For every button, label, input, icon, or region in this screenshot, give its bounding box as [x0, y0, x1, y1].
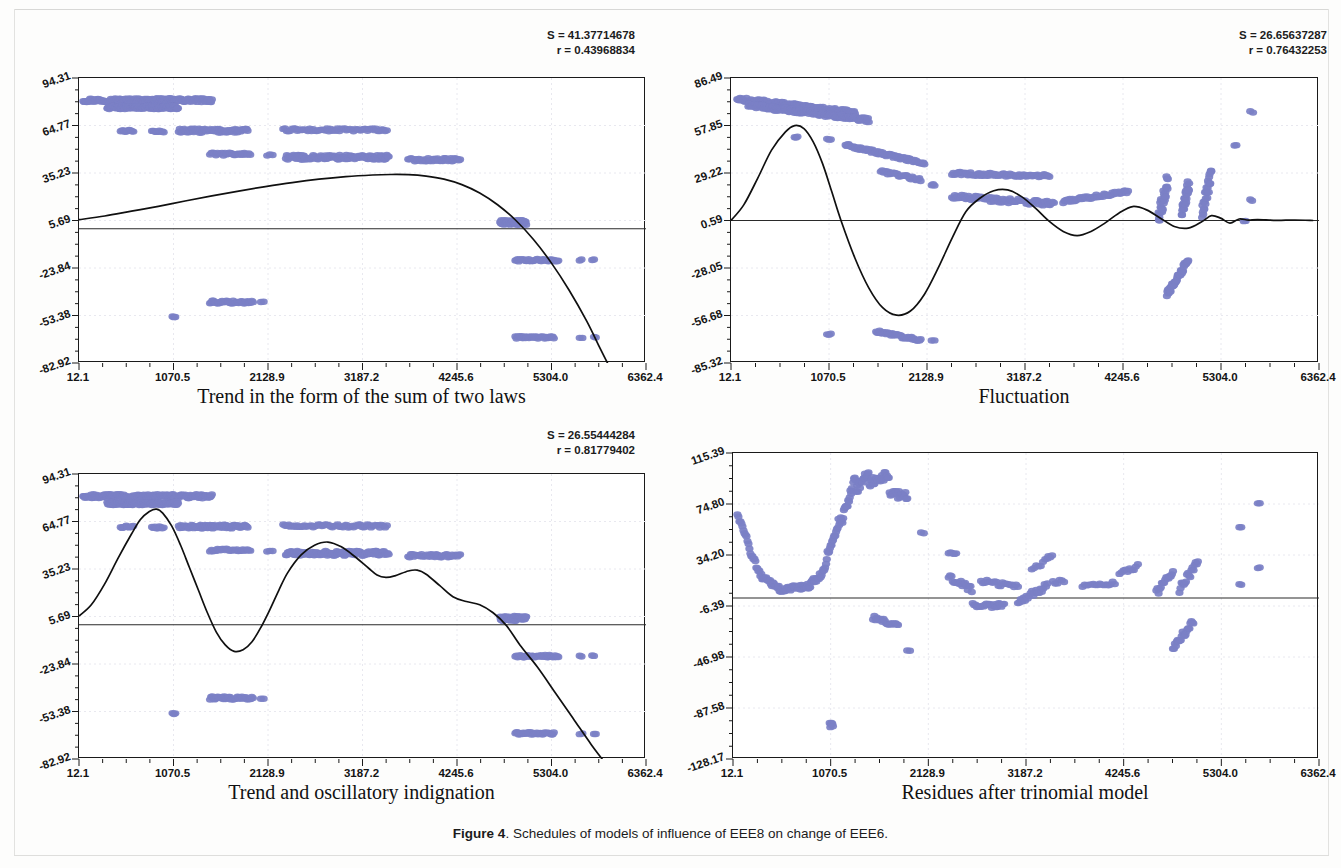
plot-canvas-2: [79, 474, 646, 759]
stats-annotation-0: S = 41.37714678 r = 0.43968834: [547, 28, 635, 58]
y-tick-label: 57.85: [669, 117, 724, 146]
x-tick-label: 1070.5: [792, 371, 864, 383]
x-tick-label: 2128.9: [231, 371, 303, 383]
x-tick-label: 4245.6: [420, 371, 492, 383]
x-tick-label: 3187.2: [326, 371, 398, 383]
y-tick-label: 94.31: [17, 69, 72, 98]
x-tick-label: 5304.0: [1184, 371, 1256, 383]
s-value-1: S = 26.65637287: [1239, 28, 1327, 43]
y-tick-label: 34.20: [671, 546, 726, 575]
scan-border-bottom: [14, 855, 1329, 856]
x-tick-label: 5304.0: [515, 767, 587, 779]
x-tick-label: 4245.6: [1086, 371, 1158, 383]
y-tick-label: -87.58: [671, 699, 726, 728]
y-tick-label: -53.38: [17, 307, 72, 336]
y-tick-label: 5.69: [17, 608, 72, 637]
panel-title-0: Trend in the form of the sum of two laws: [78, 385, 645, 408]
y-tick-label: -56.68: [669, 307, 724, 336]
y-tick-label: 86.49: [669, 69, 724, 98]
x-tick-label: 1070.5: [137, 371, 209, 383]
figure-caption-label: Figure 4: [453, 826, 506, 841]
x-tick-label: 5304.0: [515, 371, 587, 383]
panel-title-1: Fluctuation: [730, 385, 1318, 408]
s-value-2: S = 26.55444284: [547, 428, 635, 443]
y-tick-label: 115.39: [671, 444, 726, 473]
s-value-0: S = 41.37714678: [547, 28, 635, 43]
chart-panel-fluctuation: S = 26.65637287 r = 0.76432253 Fluctuati…: [660, 0, 1341, 420]
x-tick-label: 12.1: [696, 767, 768, 779]
y-tick-label: 64.77: [17, 513, 72, 542]
plot-area-3[interactable]: [732, 452, 1318, 758]
x-tick-label: 4245.6: [420, 767, 492, 779]
y-tick-label: 35.23: [17, 560, 72, 589]
x-tick-label: 2128.9: [891, 767, 963, 779]
y-tick-label: -46.98: [671, 648, 726, 677]
chart-panel-trend-sum-two-laws: S = 41.37714678 r = 0.43968834 Trend in …: [0, 0, 670, 420]
x-tick-label: 4245.6: [1087, 767, 1159, 779]
panel-title-2: Trend and oscillatory indignation: [78, 781, 645, 804]
x-tick-label: 3187.2: [988, 371, 1060, 383]
panel-title-3: Residues after trinomial model: [732, 781, 1318, 804]
y-tick-label: -53.38: [17, 703, 72, 732]
x-tick-label: 6362.4: [1282, 371, 1341, 383]
x-tick-label: 12.1: [42, 371, 114, 383]
x-tick-label: 3187.2: [326, 767, 398, 779]
stats-annotation-1: S = 26.65637287 r = 0.76432253: [1239, 28, 1327, 58]
y-tick-label: 94.31: [17, 465, 72, 494]
y-tick-label: -23.84: [17, 259, 72, 288]
x-tick-label: 1070.5: [794, 767, 866, 779]
y-tick-label: 0.59: [669, 212, 724, 241]
x-tick-label: 12.1: [694, 371, 766, 383]
x-tick-label: 2128.9: [890, 371, 962, 383]
x-tick-label: 12.1: [42, 767, 114, 779]
r-value-1: r = 0.76432253: [1239, 43, 1327, 58]
y-tick-label: -23.84: [17, 655, 72, 684]
plot-canvas-3: [733, 453, 1319, 759]
y-tick-label: 35.23: [17, 164, 72, 193]
figure-caption-text: . Schedules of models of influence of EE…: [505, 826, 888, 841]
y-tick-label: 74.80: [671, 495, 726, 524]
stats-annotation-2: S = 26.55444284 r = 0.81779402: [547, 428, 635, 458]
plot-canvas-1: [731, 78, 1319, 363]
figure-caption: Figure 4. Schedules of models of influen…: [0, 826, 1341, 841]
r-value-0: r = 0.43968834: [547, 43, 635, 58]
plot-area-2[interactable]: [78, 473, 645, 758]
x-tick-label: 3187.2: [989, 767, 1061, 779]
x-tick-label: 2128.9: [231, 767, 303, 779]
plot-area-0[interactable]: [78, 77, 645, 362]
y-tick-label: -28.05: [669, 259, 724, 288]
x-tick-label: 5304.0: [1184, 767, 1256, 779]
x-tick-label: 6362.4: [1282, 767, 1341, 779]
y-tick-label: -6.39: [671, 597, 726, 626]
plot-area-1[interactable]: [730, 77, 1318, 362]
r-value-2: r = 0.81779402: [547, 443, 635, 458]
x-tick-label: 1070.5: [137, 767, 209, 779]
chart-panel-residues-after-trinomial-model: Residues after trinomial model 115.3974.…: [660, 420, 1341, 830]
chart-panel-trend-oscillatory-indignation: S = 26.55444284 r = 0.81779402 Trend and…: [0, 420, 670, 830]
plot-canvas-0: [79, 78, 646, 363]
y-tick-label: 29.22: [669, 164, 724, 193]
y-tick-label: 64.77: [17, 117, 72, 146]
y-tick-label: 5.69: [17, 212, 72, 241]
